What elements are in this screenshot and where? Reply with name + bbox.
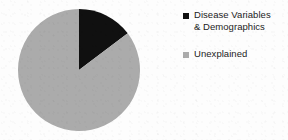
legend-item-label: Disease Variables & Demographics	[194, 9, 271, 32]
square-marker-icon	[183, 13, 189, 19]
legend-item-unexplained[interactable]: Unexplained	[183, 48, 287, 60]
legend-item-label: Unexplained	[194, 48, 247, 60]
pie-chart-figure: Disease Variables & Demographics Unexpla…	[0, 0, 288, 140]
pie-chart-plot-area	[18, 9, 140, 131]
pie-chart-svg	[18, 9, 140, 131]
legend-item-disease-variables-demographics[interactable]: Disease Variables & Demographics	[183, 9, 287, 32]
chart-legend: Disease Variables & Demographics Unexpla…	[183, 9, 287, 76]
square-marker-icon	[183, 52, 189, 58]
pie-slices	[18, 9, 140, 131]
